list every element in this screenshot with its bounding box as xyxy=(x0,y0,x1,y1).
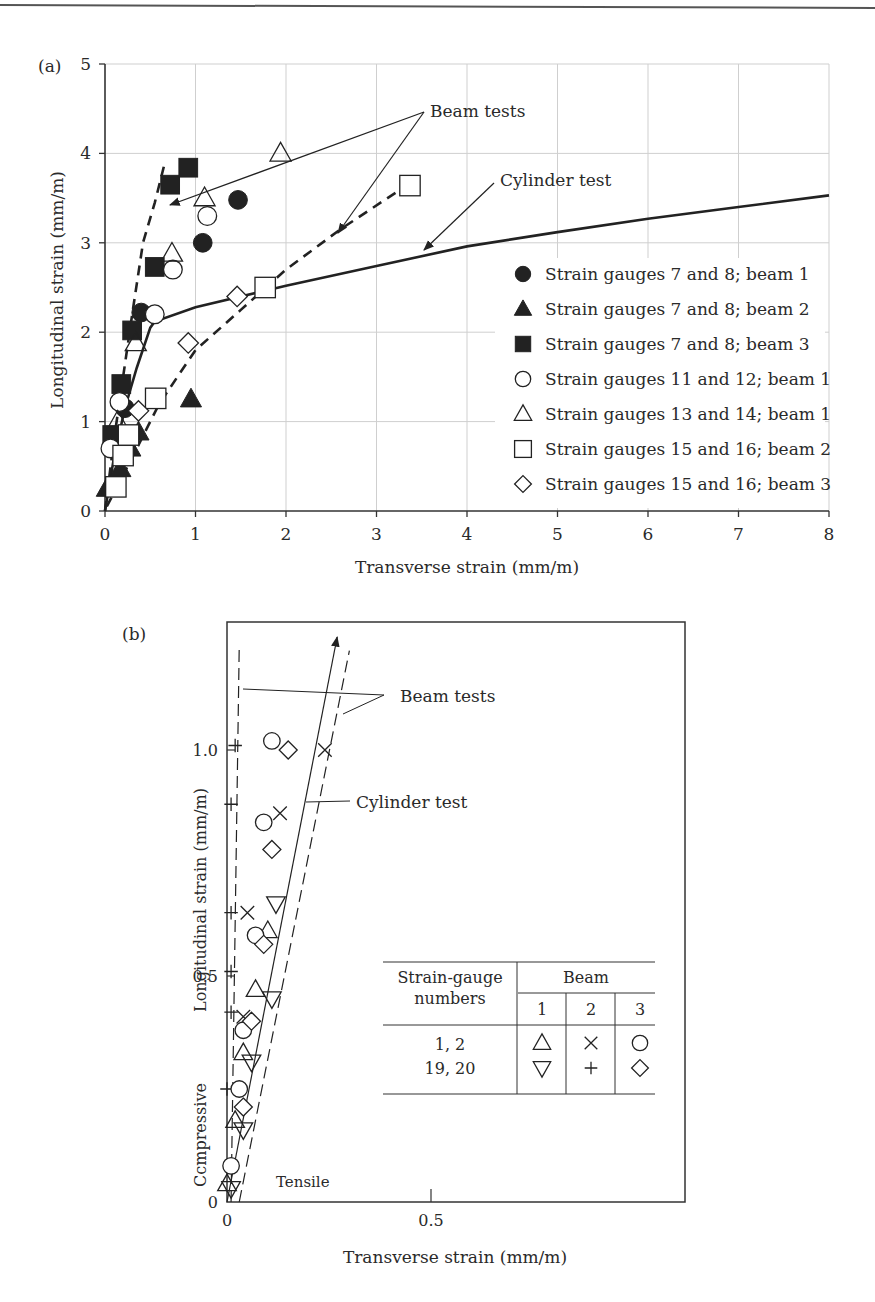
panel-b-curves xyxy=(227,637,349,1202)
y-tick-label: 5 xyxy=(80,54,91,74)
panel-b-frame xyxy=(227,622,685,1202)
x-marker xyxy=(585,1037,598,1050)
x-tick-label: 5 xyxy=(552,524,563,544)
triangle-marker xyxy=(533,1034,550,1049)
top-rule xyxy=(0,5,875,8)
circle-marker xyxy=(110,393,129,412)
panel-a-beam-tests-label: Beam tests xyxy=(430,101,525,121)
x-tick-label: 0.5 xyxy=(418,1211,443,1230)
filled-square-marker xyxy=(112,375,131,394)
circle-marker xyxy=(255,814,272,831)
diamond-marker xyxy=(632,1060,649,1077)
x-marker xyxy=(241,906,255,920)
legend-label: Strain gauges 7 and 8; beam 3 xyxy=(545,334,810,354)
x-tick-label: 0 xyxy=(222,1211,232,1230)
y-tick-label: 4 xyxy=(80,143,91,163)
table-beam-3: 3 xyxy=(635,1000,645,1019)
legend-label: Strain gauges 15 and 16; beam 3 xyxy=(545,474,831,494)
x-marker xyxy=(273,807,287,821)
filled-circle-marker xyxy=(193,233,212,252)
diamond-marker xyxy=(279,741,297,759)
panel-a-y-axis-title: Longitudinal strain (mm/m) xyxy=(47,171,67,409)
figure: (a) 012345678012345 Beam tests Cylinder … xyxy=(0,0,875,1302)
y-tick-label: 2 xyxy=(80,322,91,342)
circle-marker xyxy=(223,1158,240,1175)
square-marker xyxy=(106,477,126,497)
filled-square-marker xyxy=(179,158,198,177)
circle-marker xyxy=(164,260,183,279)
triangle-marker xyxy=(246,980,265,997)
filled-square-marker xyxy=(515,336,530,351)
y-tick-label: 1 xyxy=(80,412,91,432)
diamond-marker xyxy=(227,286,247,306)
y-tick-label: 1.0 xyxy=(193,741,218,760)
square-marker xyxy=(400,175,420,195)
x-tick-label: 0 xyxy=(100,524,111,544)
panel-b-x-axis-title: Transverse strain (mm/m) xyxy=(343,1247,567,1267)
panel-a-cylinder-test-label: Cylinder test xyxy=(500,170,612,190)
filled-circle-marker xyxy=(515,266,530,281)
square-marker xyxy=(255,277,275,297)
plus-marker xyxy=(585,1062,598,1075)
circle-marker xyxy=(264,733,281,750)
panel-a-x-axis-title: Transverse strain (mm/m) xyxy=(355,557,579,577)
beam-test-line xyxy=(239,651,349,1202)
legend-label: Strain gauges 13 and 14; beam 1 xyxy=(545,404,831,424)
panel-b-beam-tests-label: Beam tests xyxy=(400,686,495,706)
panel-b-beam-tests-leader-1 xyxy=(243,689,384,695)
x-tick-label: 2 xyxy=(281,524,292,544)
cylinder-test-line xyxy=(227,637,337,1202)
y-tick-label: 0 xyxy=(80,501,91,521)
square-marker xyxy=(113,445,133,465)
triangle-marker xyxy=(270,142,291,161)
table-beam-2: 2 xyxy=(586,1000,596,1019)
panel-b-cylinder-test-label: Cylinder test xyxy=(356,792,468,812)
table-header-strain-gauge: Strain-gauge xyxy=(397,968,502,987)
filled-triangle-marker xyxy=(180,388,201,407)
circle-marker xyxy=(198,207,217,226)
panel-b-y-axis-title: Longitudinal strain (mm/m) xyxy=(191,788,210,1012)
filled-square-marker xyxy=(161,175,180,194)
compressive-label: Ccmpressive xyxy=(191,1083,210,1187)
x-tick-label: 8 xyxy=(824,524,835,544)
y-tick-label: 3 xyxy=(80,233,91,253)
square-marker xyxy=(118,425,138,445)
diamond-marker xyxy=(263,840,281,858)
legend-label: Strain gauges 7 and 8; beam 2 xyxy=(545,299,810,319)
panel-b-chart: (b) 00.500.51.0 Beam tests Cylinder test… xyxy=(122,622,685,1267)
x-tick-label: 7 xyxy=(733,524,744,544)
x-tick-label: 4 xyxy=(462,524,473,544)
panel-a-data-points xyxy=(96,142,420,497)
square-marker xyxy=(515,441,532,458)
panel-b-beam-tests-leader-2 xyxy=(343,695,384,714)
panel-a-chart: (a) 012345678012345 Beam tests Cylinder … xyxy=(38,54,834,577)
beam-tests-arrow-1 xyxy=(170,112,424,205)
table-header-beam: Beam xyxy=(563,968,609,987)
beam-test-line xyxy=(231,646,239,1202)
circle-marker xyxy=(515,371,530,386)
panel-b-cylinder-test-leader xyxy=(306,801,350,802)
square-marker xyxy=(145,388,165,408)
table-header-numbers: numbers xyxy=(414,989,485,1008)
beam-tests-arrow-2 xyxy=(338,112,424,233)
filled-circle-marker xyxy=(229,191,248,210)
table-row-2-gauges: 19, 20 xyxy=(425,1059,476,1078)
legend-label: Strain gauges 7 and 8; beam 1 xyxy=(545,264,810,284)
gauge-symbol-table: Strain-gauge numbers Beam 1 2 3 1, 2 19,… xyxy=(383,962,655,1094)
panel-a-legend: Strain gauges 7 and 8; beam 1Strain gaug… xyxy=(495,258,831,508)
circle-marker xyxy=(145,305,164,324)
x-tick-label: 3 xyxy=(371,524,382,544)
panel-b-label: (b) xyxy=(122,624,146,644)
circle-marker xyxy=(231,1081,248,1098)
circle-marker xyxy=(632,1035,647,1050)
x-tick-label: 1 xyxy=(190,524,201,544)
triangle-down-marker xyxy=(267,897,286,914)
x-tick-label: 6 xyxy=(643,524,654,544)
table-symbols xyxy=(533,1034,648,1077)
legend-label: Strain gauges 15 and 16; beam 2 xyxy=(545,439,831,459)
table-row-1-gauges: 1, 2 xyxy=(435,1035,466,1054)
y-tick-label: 0 xyxy=(208,1193,218,1212)
beam-test-curve xyxy=(107,187,404,506)
panel-a-label: (a) xyxy=(38,56,61,76)
cylinder-test-arrow xyxy=(424,183,494,250)
